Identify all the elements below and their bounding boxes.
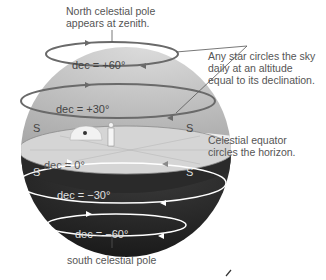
direction-south-upper-right: S [186,122,193,134]
observer-figure [108,128,114,146]
annotation-north-pole: North celestial pole appears at zenith. [66,5,155,29]
direction-south-upper-left: S [33,122,40,134]
direction-south-lower-left: S [33,166,40,178]
dec-label-zero: dec = 0° [44,159,85,171]
dec-label-plus60: dec = +60° [72,59,125,71]
dec-label-plus30: dec = +30° [56,103,109,115]
annotation-star-altitude: Any star circles the sky daily at an alt… [208,50,315,86]
direction-south-lower-right: S [186,166,193,178]
annotation-south-pole: south celestial pole [67,254,156,266]
annotation-celestial-equator: Celestial equator circles the horizon. [208,134,296,158]
dec-label-minus30: dec = −30° [57,189,110,201]
dec-label-minus60: dec = −60° [75,228,128,240]
